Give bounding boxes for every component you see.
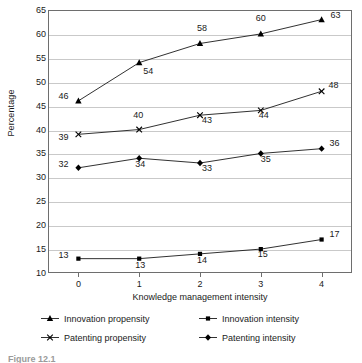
- data-point-label: 13: [58, 251, 68, 260]
- x-axis-tick-label: 4: [312, 279, 332, 289]
- y-axis-tick-label: 35: [20, 149, 46, 158]
- data-point-label: 14: [197, 256, 207, 265]
- legend-item[interactable]: Patenting propensity: [40, 329, 146, 346]
- legend-symbol: [198, 332, 218, 343]
- data-point-label: 32: [58, 160, 68, 169]
- legend-label: Patenting intensity: [222, 333, 296, 343]
- y-axis-tick-label: 10: [20, 269, 46, 278]
- data-point-label: 58: [197, 24, 207, 33]
- x-axis-tick-label: 0: [68, 279, 88, 289]
- legend-label: Patenting propensity: [64, 333, 146, 343]
- gridline: [49, 226, 351, 227]
- data-point-label: 43: [202, 116, 212, 125]
- gridline: [49, 250, 351, 251]
- legend-item[interactable]: Innovation intensity: [198, 310, 299, 327]
- data-point-label: 63: [331, 11, 341, 20]
- legend-item[interactable]: Patenting intensity: [198, 329, 296, 346]
- gridline: [49, 154, 351, 155]
- legend-symbol: [198, 313, 218, 324]
- y-axis-tick-label: 40: [20, 126, 46, 135]
- data-point-label: 35: [261, 155, 271, 164]
- y-axis-tick-label: 55: [20, 54, 46, 63]
- data-point-label: 13: [135, 261, 145, 270]
- legend-symbol: [40, 313, 60, 324]
- gridline: [49, 178, 351, 179]
- square-marker: [206, 316, 210, 320]
- x-axis-tick-mark: [261, 273, 262, 277]
- data-point-label: 60: [256, 14, 266, 23]
- data-point-label: 15: [258, 250, 268, 259]
- figure-container: Percentage 101520253035404550556065 0123…: [0, 0, 362, 363]
- legend-symbol: [40, 332, 60, 343]
- figure-caption: Figure 12.1: [8, 354, 56, 363]
- data-point-label: 34: [135, 160, 145, 169]
- y-axis-title: Percentage: [6, 68, 16, 158]
- y-axis-tick-label: 15: [20, 245, 46, 254]
- gridline: [49, 202, 351, 203]
- data-point-label: 48: [329, 81, 339, 90]
- data-point-label: 40: [133, 111, 143, 120]
- x-axis-title: Knowledge management intensity: [48, 292, 352, 302]
- legend-label: Innovation intensity: [222, 314, 299, 324]
- data-point-label: 36: [330, 139, 340, 148]
- data-point-label: 33: [202, 164, 212, 173]
- chart-legend: Innovation propensityInnovation intensit…: [40, 310, 330, 350]
- x-axis-tick-mark: [200, 273, 201, 277]
- x-axis-tick-label: 1: [129, 279, 149, 289]
- plot-frame: [48, 10, 352, 273]
- y-axis-tick-label: 25: [20, 197, 46, 206]
- data-point-label: 39: [58, 133, 68, 142]
- data-point-label: 46: [58, 92, 68, 101]
- y-axis-tick-label: 60: [20, 30, 46, 39]
- y-axis-tick-label: 45: [20, 102, 46, 111]
- data-point-label: 17: [330, 230, 340, 239]
- y-axis-tick-label: 50: [20, 78, 46, 87]
- x-axis-tick-mark: [322, 273, 323, 277]
- x-axis-tick-mark: [78, 273, 79, 277]
- diamond-marker: [205, 334, 211, 340]
- legend-item[interactable]: Innovation propensity: [40, 310, 150, 327]
- data-point-label: 44: [259, 111, 269, 120]
- gridline: [49, 59, 351, 60]
- y-axis-tick-label: 20: [20, 221, 46, 230]
- x-axis-tick-mark: [139, 273, 140, 277]
- gridline: [49, 83, 351, 84]
- gridline: [49, 35, 351, 36]
- gridline: [49, 107, 351, 108]
- y-axis-tick-label: 30: [20, 173, 46, 182]
- data-point-label: 54: [143, 67, 153, 76]
- gridline: [49, 131, 351, 132]
- x-axis-tick-label: 2: [190, 279, 210, 289]
- x-axis-tick-label: 3: [251, 279, 271, 289]
- legend-label: Innovation propensity: [64, 314, 150, 324]
- chart-plot-region: Percentage 101520253035404550556065 0123…: [0, 0, 362, 285]
- y-axis-tick-label: 65: [20, 6, 46, 15]
